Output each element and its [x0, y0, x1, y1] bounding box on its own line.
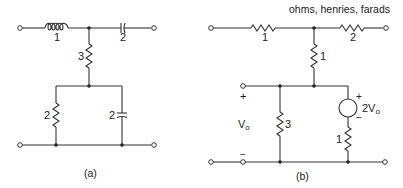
- terminal-b-out-bottom: [383, 160, 388, 165]
- node: [312, 84, 316, 88]
- resistor-R2: [53, 103, 59, 127]
- capacitor-C1-label: 2: [120, 31, 126, 43]
- terminal-Vo-minus: [241, 160, 246, 165]
- circuit-figure: 1 2 3 2 2: [0, 0, 403, 188]
- resistor-Rb4: [277, 112, 283, 136]
- units-note: ohms, henries, farads: [289, 3, 390, 15]
- terminal-a-out-top: [152, 26, 157, 31]
- resistor-Rb5: [345, 127, 351, 151]
- resistor-Rb2-label: 2: [350, 31, 356, 43]
- resistor-Rb3: [311, 44, 317, 68]
- node: [120, 143, 124, 147]
- terminal-Vo-plus: [241, 84, 246, 89]
- terminal-b-out-top: [384, 26, 389, 31]
- node: [278, 160, 282, 164]
- resistor-Rb5-label: 1: [336, 133, 342, 145]
- capacitor-C2-label: 2: [109, 109, 115, 121]
- caption-b: (b): [296, 170, 309, 182]
- caption-a: (a): [84, 167, 97, 179]
- terminal-a-in-top: [18, 26, 23, 31]
- resistor-Rb3-label: 1: [320, 50, 326, 62]
- Vo-label: Vo: [238, 118, 250, 132]
- resistor-R3: [86, 44, 92, 68]
- resistor-Rb4-label: 3: [285, 118, 291, 130]
- source-plus-sign: +: [356, 91, 362, 102]
- inductor-L1: [45, 23, 68, 30]
- resistor-R3-label: 3: [78, 50, 84, 62]
- Vo-minus-sign: −: [240, 149, 246, 160]
- circuit-a: 1 2 3 2 2: [18, 23, 157, 179]
- source-label: 2Vo: [362, 102, 380, 116]
- resistor-R2-label: 2: [44, 109, 50, 121]
- resistor-Rb1-label: 1: [262, 31, 268, 43]
- terminal-b-in-bottom: [209, 160, 214, 165]
- node: [54, 143, 58, 147]
- terminal-a-in-bottom: [18, 143, 23, 148]
- terminal-a-out-bottom: [152, 143, 157, 148]
- circuit-b: ohms, henries, farads 1 2 1 + Vo 3 +: [209, 3, 390, 182]
- inductor-L1-label: 1: [54, 31, 60, 43]
- Vo-plus-sign: +: [240, 90, 246, 102]
- terminal-b-in-top: [209, 26, 214, 31]
- dependent-voltage-source: [339, 99, 357, 117]
- node: [346, 160, 350, 164]
